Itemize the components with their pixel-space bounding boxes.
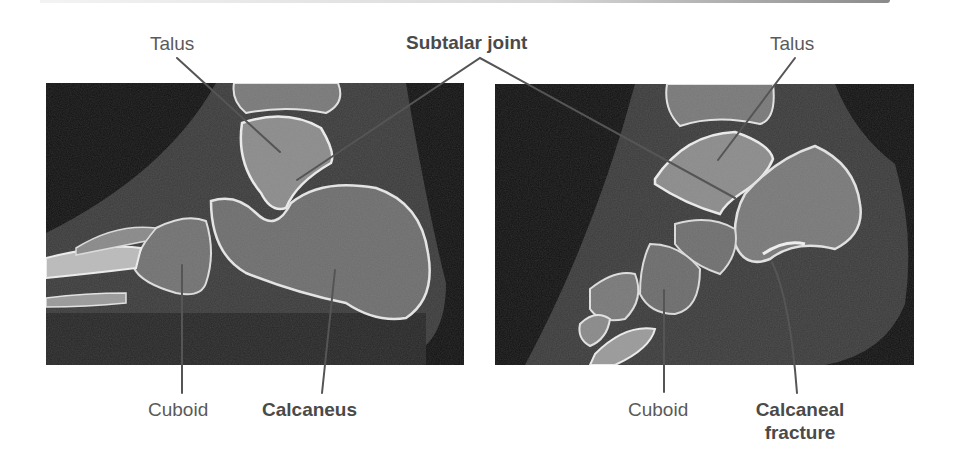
ct-normal-foot-graphic [46,83,464,365]
label-left-cuboid: Cuboid [148,400,208,419]
label-right-cuboid: Cuboid [628,400,688,419]
label-subtalar-joint: Subtalar joint [406,33,527,52]
top-divider-rule [40,0,890,3]
label-left-talus: Talus [150,34,194,53]
label-calcaneal-fracture-line1: Calcaneal [740,400,860,419]
ct-image-fractured-foot [495,84,914,365]
ct-fractured-foot-graphic [495,84,914,365]
ct-image-normal-foot [46,83,464,365]
label-calcaneal-fracture-line2: fracture [740,423,860,442]
label-calcaneus: Calcaneus [262,400,357,419]
label-right-talus: Talus [770,34,814,53]
